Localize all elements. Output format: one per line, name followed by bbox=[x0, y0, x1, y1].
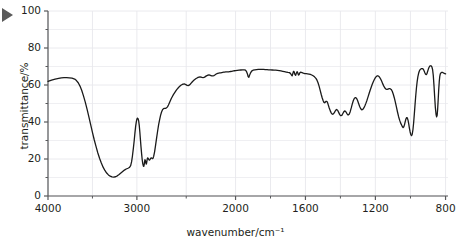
x-tick-label: 2000 bbox=[214, 202, 258, 214]
gridlines bbox=[48, 11, 448, 196]
y-tick-label: 100 bbox=[0, 4, 41, 16]
spectrum-curve bbox=[48, 66, 446, 177]
x-tick-label: 800 bbox=[424, 202, 468, 214]
tick-marks bbox=[44, 11, 446, 200]
x-tick-label: 1200 bbox=[353, 202, 397, 214]
x-tick-label: 4000 bbox=[26, 202, 70, 214]
ir-spectrum-figure: 02040608010040003000200016001200800 tran… bbox=[0, 0, 471, 251]
x-tick-label: 3000 bbox=[115, 202, 159, 214]
x-tick-label: 1600 bbox=[283, 202, 327, 214]
x-axis-label: wavenumber/cm⁻¹ bbox=[0, 226, 471, 238]
y-tick-label: 0 bbox=[0, 189, 41, 201]
y-axis-label: transmittance/% bbox=[18, 36, 30, 176]
